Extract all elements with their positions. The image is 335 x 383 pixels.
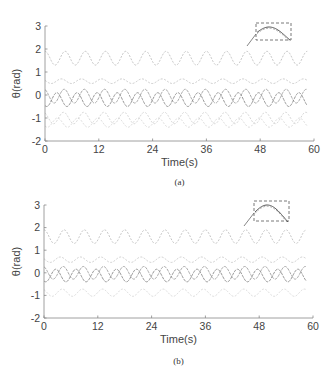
y-tick-label: -1 [32,112,41,124]
line-curve-1 [45,51,307,65]
y-tick-label: 1 [35,66,41,78]
inset-curve-secondary [257,28,290,41]
x-tick-label: 12 [92,320,104,332]
y-tick-label: 2 [35,43,41,55]
y-tick-label: -2 [32,135,41,147]
y-tick-label: 2 [34,221,40,233]
zoom-inset [244,201,289,226]
x-tick-label: 24 [146,320,158,332]
panel-b: -2-1012301224364860Time(s)θ(rad)(b) [10,199,319,366]
line-curve-4 [44,269,306,282]
x-tick-label: 48 [253,320,265,332]
line-curve-4 [45,93,307,107]
x-tick-label: 0 [42,143,48,155]
x-axis-title: Time(s) [160,333,197,345]
y-axis-title: θ(rad) [10,69,22,98]
y-tick-label: -1 [31,289,40,301]
line-curve-2 [45,79,307,84]
zoom-inset [247,23,291,46]
x-tick-label: 36 [200,320,212,332]
line-curve-3 [44,267,306,280]
x-tick-label: 24 [147,143,159,155]
y-tick-label: 0 [35,89,41,101]
x-tick-label: 60 [307,320,319,332]
line-curve-5 [44,289,306,296]
line-curve-2 [44,257,306,262]
x-tick-label: 36 [201,143,213,155]
line-curve-5 [45,112,307,123]
panel-a: -2-1012301224364860Time(s)θ(rad)(a) [10,20,320,187]
inset-connector [247,34,256,46]
y-tick-label: 3 [35,20,41,32]
panel-caption: (b) [173,356,184,366]
x-tick-label: 60 [308,143,320,155]
y-tick-label: 1 [34,244,40,256]
line-curve-3 [45,89,307,103]
x-tick-label: 48 [254,143,266,155]
series-group [44,230,306,296]
y-tick-label: 0 [34,267,40,279]
x-axis-title: Time(s) [161,156,198,168]
y-tick-label: 3 [34,199,40,211]
y-axis-title: θ(rad) [10,247,22,276]
y-tick-label: -2 [31,312,40,324]
x-tick-label: 0 [41,320,47,332]
inset-connector [244,213,254,226]
figure: -2-1012301224364860Time(s)θ(rad)(a) -2-1… [0,0,335,383]
panel-caption: (a) [175,177,185,187]
series-group [45,51,307,127]
x-tick-label: 12 [93,143,105,155]
line-curve-1 [44,230,306,244]
line-curve-6 [45,118,307,127]
